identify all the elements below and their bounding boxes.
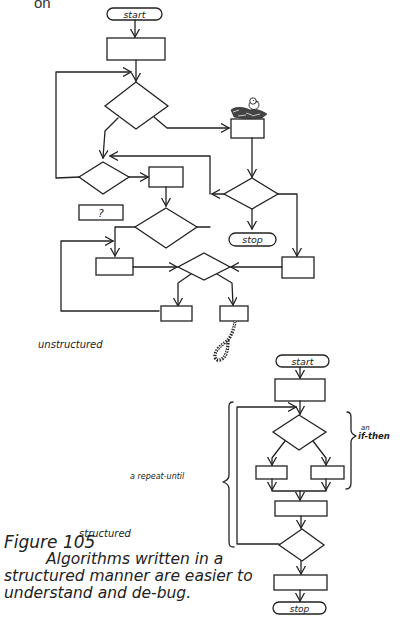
structured-stop-label: stop (290, 604, 310, 614)
caption-line-3: understand and de-bug. (4, 585, 253, 602)
structured-start-label: start (291, 356, 314, 367)
unstructured-decision-3 (224, 178, 278, 209)
structured-else-box (311, 466, 344, 479)
bird-on-nest-icon (231, 98, 267, 119)
structured-decision-2 (279, 529, 324, 561)
noose-icon (215, 321, 235, 360)
unstructured-process-6 (220, 306, 248, 321)
if-then-label: if-then (358, 431, 390, 441)
structured-process-3 (275, 501, 327, 516)
unstructured-flowchart: start (38, 8, 314, 360)
unstructured-stop-terminal: stop (229, 233, 276, 246)
structured-decision-1 (273, 415, 326, 450)
figure-number: Figure 105 (4, 534, 253, 551)
unstructured-process-1 (107, 38, 165, 60)
unstructured-process-2 (149, 167, 183, 187)
unstructured-decision-2 (79, 162, 129, 194)
structured-process-4 (274, 575, 327, 590)
repeat-until-label: a repeat-until (130, 472, 185, 481)
unstructured-start-terminal: start (107, 8, 162, 20)
if-then-brace (346, 412, 356, 489)
structured-stop-terminal: stop (273, 602, 326, 614)
structured-then-box (256, 466, 287, 479)
unstructured-process-4 (282, 257, 314, 278)
figure-caption: Figure 105 Algorithms written in a struc… (4, 534, 253, 602)
unstructured-start-label: start (123, 9, 146, 20)
unstructured-stop-label: stop (242, 234, 263, 245)
structured-start-terminal: start (276, 355, 329, 367)
unstructured-decision-4 (135, 208, 197, 248)
unstructured-process-5 (161, 306, 192, 321)
unstructured-question-box: ? (79, 205, 123, 220)
caption-line-2: structured manner are easier to (4, 568, 253, 585)
repeat-until-brace (223, 402, 234, 547)
unstructured-process-3 (96, 258, 133, 275)
unstructured-decision-5 (178, 253, 230, 280)
question-mark-label: ? (98, 207, 104, 220)
unstructured-nest-box (231, 119, 264, 138)
structured-process-1 (275, 379, 325, 401)
unstructured-label: unstructured (38, 339, 103, 350)
caption-line-1: Algorithms written in a (4, 551, 253, 568)
